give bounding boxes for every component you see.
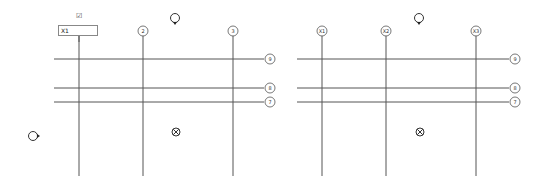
grid-label: 3 — [231, 28, 234, 34]
grid-label: 7 — [513, 99, 516, 105]
center-target-icon[interactable] — [416, 128, 424, 136]
grid-label: 2 — [141, 28, 144, 34]
grid-name-input[interactable]: X1 — [58, 25, 98, 36]
elevation-marker-icon[interactable] — [171, 14, 180, 26]
grid-label: X1 — [319, 28, 326, 34]
grid-label: 9 — [268, 56, 271, 62]
grid-label: 8 — [268, 85, 271, 91]
check-icon[interactable]: ☑ — [76, 12, 82, 20]
grid-label: 7 — [268, 99, 271, 105]
right-view: X1X2X3987 — [297, 14, 520, 177]
elevation-marker-icon[interactable] — [415, 14, 424, 26]
left-view: 23987 — [29, 14, 276, 177]
section-marker-icon[interactable] — [29, 132, 41, 141]
center-target-icon[interactable] — [172, 128, 180, 136]
grid-label: X2 — [383, 28, 390, 34]
grid-label: X3 — [473, 28, 480, 34]
grid-label: 8 — [513, 85, 516, 91]
grid-label: 9 — [513, 56, 516, 62]
